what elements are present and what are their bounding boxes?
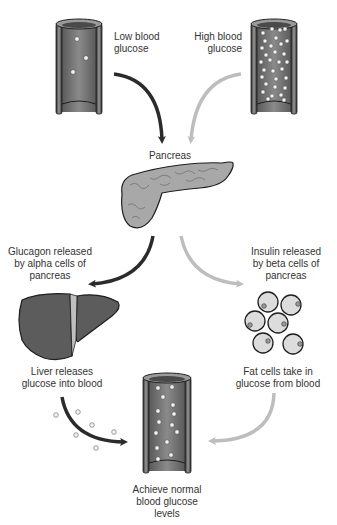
label-line: High blood (180, 31, 242, 43)
label-line: Low blood (114, 31, 160, 43)
label-low-glucose: Low blood glucose (114, 31, 160, 55)
label-liver: Liver releases glucose into blood (14, 366, 110, 390)
label-normal: Achieve normal blood glucose levels (122, 484, 212, 520)
label-line: Pancreas (140, 150, 200, 162)
label-line: Achieve normal (122, 484, 212, 496)
blood-vessel-low-glucose-icon (56, 19, 102, 114)
pancreas-icon (122, 162, 233, 228)
arrow-liver-to-normal (62, 397, 124, 442)
label-line: blood glucose (122, 496, 212, 508)
label-insulin: Insulin released by beta cells of pancre… (240, 246, 332, 282)
arrow-pancreas-to-insulin (181, 236, 240, 284)
label-fat-cells: Fat cells take in glucose from blood (228, 366, 328, 390)
label-line: glucose from blood (228, 378, 328, 390)
label-line: glucose (180, 43, 242, 55)
arrow-low-to-pancreas (114, 74, 162, 140)
label-glucagon: Glucagon released by alpha cells of panc… (4, 246, 96, 282)
label-line: Liver releases (14, 366, 110, 378)
arrow-fat-to-normal (212, 393, 274, 441)
label-line: by alpha cells of (4, 258, 96, 270)
blood-vessel-high-glucose-icon (251, 19, 297, 114)
arrow-pancreas-to-glucagon (92, 236, 153, 284)
liver-icon (19, 294, 119, 360)
label-line: glucose into blood (14, 378, 110, 390)
arrow-high-to-pancreas (191, 74, 241, 140)
label-line: Glucagon released (4, 246, 96, 258)
fat-cells-icon (245, 292, 303, 354)
blood-vessel-normal-glucose-icon (143, 373, 191, 473)
label-high-glucose: High blood glucose (180, 31, 242, 55)
label-line: by beta cells of (240, 258, 332, 270)
label-line: glucose (114, 43, 160, 55)
released-glucose-dots (54, 410, 117, 451)
label-line: pancreas (4, 270, 96, 282)
label-pancreas: Pancreas (140, 150, 200, 162)
label-line: levels (122, 508, 212, 520)
label-line: Fat cells take in (228, 366, 328, 378)
label-line: Insulin released (240, 246, 332, 258)
label-line: pancreas (240, 270, 332, 282)
